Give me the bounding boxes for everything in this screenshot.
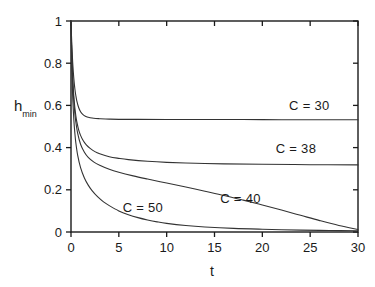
x-tick-label-5: 25: [290, 241, 330, 254]
x-tick-label-1: 5: [99, 241, 139, 254]
series-annotation-c38: C = 38: [276, 142, 316, 155]
x-tick-label-3: 15: [195, 241, 235, 254]
x-tick-label-6: 30: [338, 241, 375, 254]
y-axis-title-subscript: min: [22, 109, 37, 119]
x-tick-label-4: 20: [242, 241, 282, 254]
plot-frame: [71, 21, 358, 232]
y-tick-label-1: 0.2: [44, 183, 62, 196]
series-curve-c50: [71, 21, 358, 231]
series-annotation-c50: C = 50: [123, 201, 163, 214]
x-axis-title: t: [210, 264, 214, 278]
x-tick-label-0: 0: [51, 241, 91, 254]
y-axis-title: hmin: [14, 98, 37, 117]
y-tick-label-3: 0.6: [44, 99, 62, 112]
y-tick-label-4: 0.8: [44, 57, 62, 70]
y-tick-label-2: 0.4: [44, 141, 62, 154]
series-annotation-c40: C = 40: [220, 192, 260, 205]
series-curve-c40: [71, 21, 358, 229]
figure-container: hmin t 00.20.40.60.81051015202530 C = 30…: [0, 0, 375, 287]
y-tick-label-0: 0: [55, 226, 62, 239]
y-tick-label-5: 1: [55, 15, 62, 28]
x-tick-label-2: 10: [147, 241, 187, 254]
series-annotation-c30: C = 30: [289, 99, 329, 112]
